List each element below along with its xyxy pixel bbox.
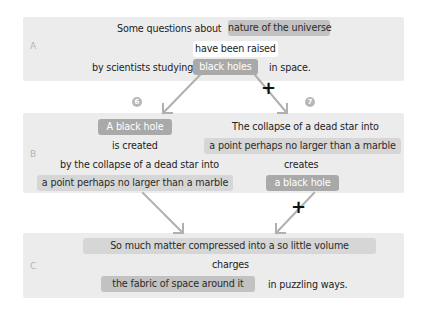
arrow-a-to-b-left	[163, 75, 200, 113]
arrow-b-left-to-c	[143, 193, 183, 233]
step-number-7: 7	[305, 97, 315, 107]
plus-icon: +	[291, 198, 306, 216]
plus-icon: +	[261, 79, 276, 97]
arrows	[0, 0, 425, 312]
step-number-6: 6	[132, 97, 142, 107]
